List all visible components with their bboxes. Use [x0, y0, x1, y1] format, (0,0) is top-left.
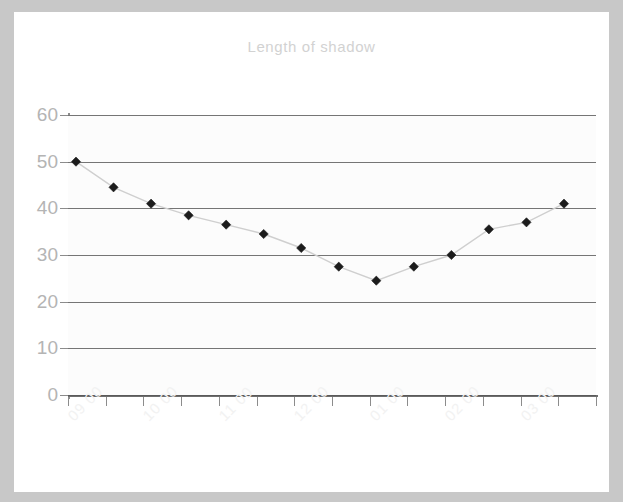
data-point-marker — [109, 183, 118, 192]
x-tick-4 — [219, 397, 220, 406]
x-tick-0 — [68, 397, 69, 406]
x-tick-11 — [483, 397, 484, 406]
x-tick-1 — [106, 397, 107, 406]
data-point-marker — [184, 211, 193, 220]
y-axis-labels: 6050403020100 — [14, 12, 58, 492]
y-axis-label: 30 — [16, 245, 58, 264]
data-point-marker — [559, 199, 568, 208]
x-tick-10 — [445, 397, 446, 406]
chart-frame: Length of shadow 6050403020100 09 0010 0… — [0, 0, 623, 502]
x-tick-13 — [558, 397, 559, 406]
data-point-marker — [522, 218, 531, 227]
data-point-marker — [447, 250, 456, 259]
data-point-marker — [297, 243, 306, 252]
series-line — [76, 162, 564, 281]
data-point-marker — [259, 229, 268, 238]
y-axis-label: 0 — [16, 385, 58, 404]
plot-area — [68, 115, 596, 395]
y-axis-label: 10 — [16, 338, 58, 357]
data-point-marker — [334, 262, 343, 271]
data-point-marker — [222, 220, 231, 229]
y-axis-label: 20 — [16, 292, 58, 311]
data-point-marker — [71, 157, 80, 166]
data-point-marker — [146, 199, 155, 208]
chart-plate: Length of shadow 6050403020100 09 0010 0… — [14, 12, 609, 492]
y-axis-label: 60 — [16, 105, 58, 124]
x-tick-12 — [521, 397, 522, 406]
x-tick-14 — [596, 397, 597, 406]
x-tick-8 — [370, 397, 371, 406]
x-tick-7 — [332, 397, 333, 406]
x-tick-3 — [181, 397, 182, 406]
data-point-marker — [484, 225, 493, 234]
chart-title: Length of shadow — [14, 38, 609, 55]
y-axis-label: 50 — [16, 152, 58, 171]
gridline-0 — [68, 395, 596, 396]
series-shadow-length — [68, 115, 596, 395]
series-markers — [71, 157, 568, 285]
y-axis-label: 40 — [16, 198, 58, 217]
x-tick-6 — [294, 397, 295, 406]
data-point-marker — [372, 276, 381, 285]
x-tick-5 — [257, 397, 258, 406]
data-point-marker — [409, 262, 418, 271]
x-tick-2 — [143, 397, 144, 406]
x-tick-9 — [407, 397, 408, 406]
